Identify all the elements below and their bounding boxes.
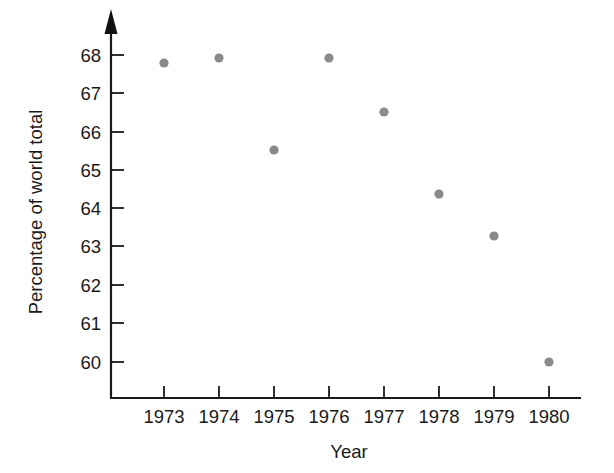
x-tick-label-1980: 1980 [528, 406, 569, 427]
data-point-1979 [489, 231, 498, 240]
x-tick-label-1978: 1978 [418, 406, 459, 427]
y-tick-label-66: 66 [80, 122, 101, 143]
y-tick-label-65: 65 [80, 160, 101, 181]
y-axis-title: Percentage of world total [25, 110, 46, 315]
y-tick-label-60: 60 [80, 352, 101, 373]
scatter-chart-figure: 68 67 66 65 64 63 62 61 60 1973 1974 [0, 0, 614, 473]
data-point-1975 [269, 145, 278, 154]
y-tick-label-68: 68 [80, 45, 101, 66]
x-tick-label-1975: 1975 [253, 406, 294, 427]
data-point-1976 [324, 53, 333, 62]
data-point-1973 [159, 58, 168, 67]
data-point-1978 [434, 189, 443, 198]
x-axis-title: Year [330, 441, 367, 462]
data-point-series [159, 53, 553, 366]
data-point-1977 [379, 107, 388, 116]
y-tick-label-64: 64 [80, 198, 101, 219]
data-point-1980 [544, 357, 553, 366]
y-axis-arrow-icon [105, 9, 118, 34]
x-tick-label-1973: 1973 [143, 406, 184, 427]
data-point-1974 [214, 53, 223, 62]
y-tick-label-63: 63 [80, 236, 101, 257]
x-axis-ticks: 1973 1974 1975 1976 1977 1978 1979 1980 [143, 386, 569, 427]
x-tick-label-1974: 1974 [198, 406, 239, 427]
x-tick-label-1979: 1979 [473, 406, 514, 427]
y-tick-label-61: 61 [80, 313, 101, 334]
y-tick-label-67: 67 [80, 83, 101, 104]
chart-plot-area: 68 67 66 65 64 63 62 61 60 1973 1974 [0, 0, 614, 473]
x-tick-label-1976: 1976 [308, 406, 349, 427]
y-tick-label-62: 62 [80, 275, 101, 296]
x-tick-label-1977: 1977 [363, 406, 404, 427]
y-axis-ticks: 68 67 66 65 64 63 62 61 60 [80, 45, 124, 373]
